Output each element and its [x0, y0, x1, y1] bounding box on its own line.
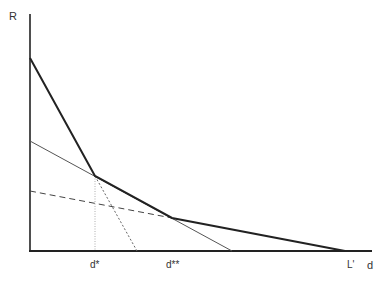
tick-label-l-prime: L' — [347, 260, 354, 270]
dashed-line — [30, 191, 172, 218]
tick-label-d-star: d* — [90, 260, 99, 270]
diagram-canvas — [0, 0, 389, 283]
bold-kinked-curve — [30, 58, 345, 251]
tick-label-d-double-star: d** — [166, 260, 179, 270]
x-axis-label: d — [367, 260, 373, 271]
y-axis-label: R — [9, 11, 17, 22]
